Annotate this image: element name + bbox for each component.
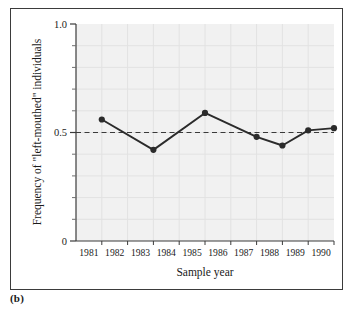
svg-text:1984: 1984 [157, 247, 176, 258]
svg-text:0.5: 0.5 [54, 127, 67, 138]
frequency-line-chart: 00.51.0 19811982198319841985198619871988… [0, 0, 356, 312]
svg-text:1985: 1985 [183, 247, 202, 258]
figure-panel: 00.51.0 19811982198319841985198619871988… [0, 0, 356, 312]
x-axis-tick-labels: 1981198219831984198519861987198819891990 [79, 247, 331, 258]
svg-text:1987: 1987 [234, 247, 253, 258]
svg-text:1983: 1983 [131, 247, 150, 258]
x-axis-ticks [102, 241, 334, 245]
x-axis-title: Sample year [176, 266, 233, 279]
svg-text:0: 0 [62, 236, 67, 247]
svg-text:1989: 1989 [286, 247, 305, 258]
svg-text:1986: 1986 [208, 247, 227, 258]
y-axis-ticks [70, 24, 76, 241]
figure-caption: (b) [10, 292, 24, 304]
svg-text:1982: 1982 [105, 247, 124, 258]
svg-text:1981: 1981 [79, 247, 98, 258]
y-axis-title: Frequency of "left-mouthed" individuals [31, 38, 44, 225]
svg-text:1.0: 1.0 [54, 19, 67, 30]
svg-text:1988: 1988 [260, 247, 279, 258]
y-axis-tick-labels: 00.51.0 [54, 19, 67, 247]
svg-text:1990: 1990 [312, 247, 331, 258]
